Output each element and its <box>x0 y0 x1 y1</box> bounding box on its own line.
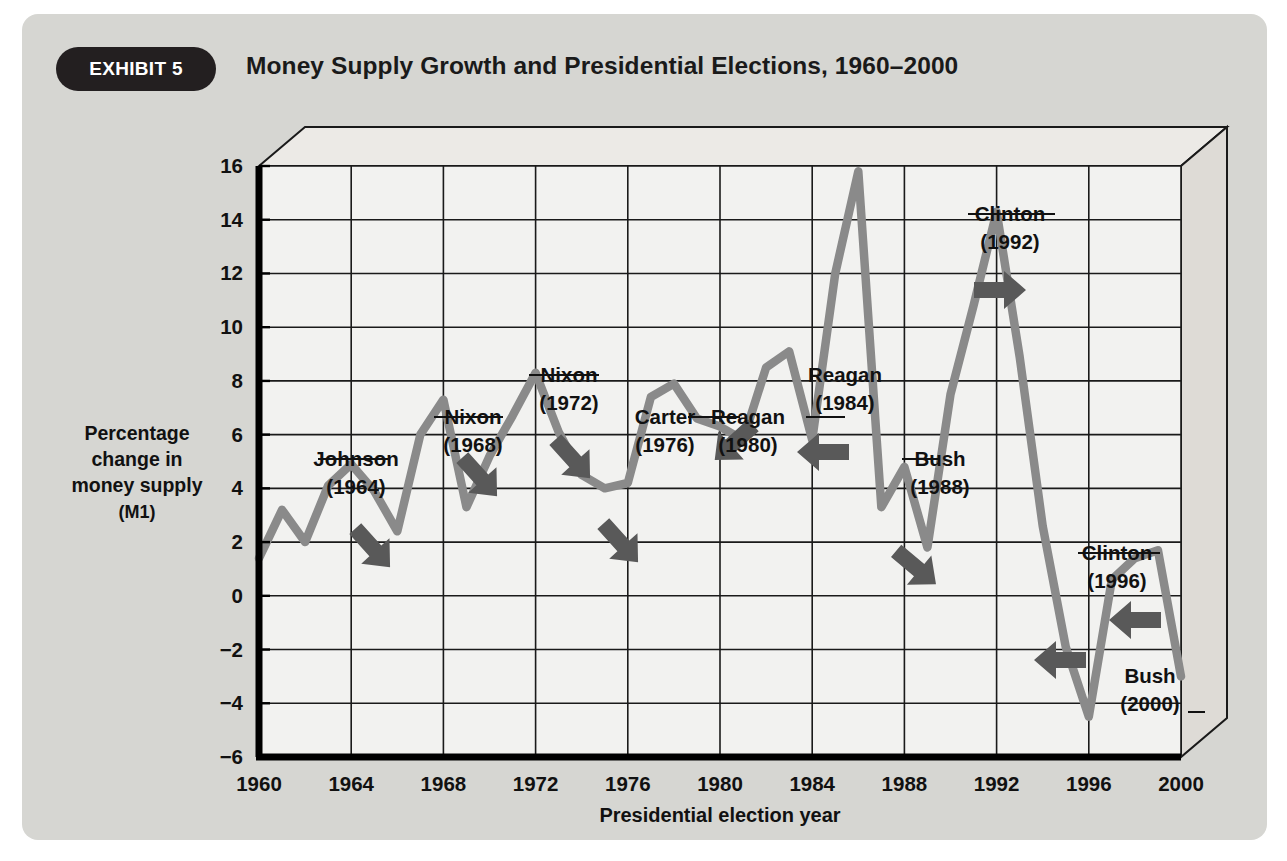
annotation-year-label: (1996) <box>1087 569 1146 592</box>
annotation-year-label: (1964) <box>326 475 385 498</box>
x-axis-tick-label: 1960 <box>236 772 282 795</box>
x-axis-tick-label: 1964 <box>328 772 374 795</box>
annotation-year-label: (2000) <box>1120 692 1179 715</box>
x-axis-tick-label: 1980 <box>697 772 743 795</box>
annotation-president-label: Johnson <box>313 447 398 470</box>
y-axis-title-line: Percentage <box>84 422 189 444</box>
chart-container: 1614121086420−2−4−6 19601964196819721976… <box>0 0 1287 861</box>
annotation-year-label: (1988) <box>910 475 969 498</box>
x-axis-tick-label: 1968 <box>421 772 467 795</box>
y-axis-tick-label: 6 <box>232 423 243 446</box>
x-axis-tick-label: 1984 <box>789 772 835 795</box>
annotation-president-label: Bush <box>1124 664 1175 687</box>
annotation-year-label: (1984) <box>815 391 874 414</box>
annotation-president-label: Clinton <box>1082 541 1153 564</box>
annotation-president-label: Reagan <box>711 405 785 428</box>
annotation-president-label: Nixon <box>445 405 502 428</box>
y-axis-tick-label: 0 <box>232 584 243 607</box>
y-axis-tick-label: 8 <box>232 369 243 392</box>
page-root: EXHIBIT 5 Money Supply Growth and Presid… <box>0 0 1287 861</box>
x-axis-tick-label: 1976 <box>605 772 651 795</box>
y-axis-tick-label: −4 <box>220 691 244 714</box>
annotation-year-label: (1992) <box>980 230 1039 253</box>
annotation-president-label: Carter <box>635 405 695 428</box>
y-axis-title-line: change in <box>91 448 182 470</box>
annotation-year-label: (1976) <box>635 433 694 456</box>
y-axis-tick-label: 2 <box>232 530 243 553</box>
annotation-year-label: (1980) <box>718 433 777 456</box>
annotation-president-label: Nixon <box>541 363 598 386</box>
annotation-president-label: Reagan <box>808 363 882 386</box>
x-axis-tick-label: 1992 <box>974 772 1020 795</box>
annotation-president-label: Bush <box>914 447 965 470</box>
y-axis-title-line: (M1) <box>119 502 156 522</box>
y-axis-tick-label: 12 <box>220 261 243 284</box>
y-axis-tick-label: 10 <box>220 315 243 338</box>
y-axis-tick-label: 14 <box>220 208 243 231</box>
y-axis-tick-label: 16 <box>220 154 243 177</box>
line-chart: 1614121086420−2−4−6 19601964196819721976… <box>0 0 1287 861</box>
x-axis-title: Presidential election year <box>599 804 840 826</box>
y-axis-tick-label: −2 <box>220 638 243 661</box>
x-axis-tick-labels: 1960196419681972197619801984198819921996… <box>236 772 1204 795</box>
y-axis-title-line: money supply <box>71 474 202 496</box>
annotation-year-label: (1972) <box>539 391 598 414</box>
annotation-president-label: Clinton <box>975 202 1046 225</box>
x-axis-tick-label: 2000 <box>1158 772 1204 795</box>
y-axis-title: Percentagechange inmoney supply(M1) <box>71 422 202 522</box>
chart-3d-right-face <box>1181 127 1227 757</box>
y-axis-tick-label: 4 <box>232 476 244 499</box>
annotation-year-label: (1968) <box>443 433 502 456</box>
x-axis-tick-label: 1988 <box>882 772 928 795</box>
x-axis-tick-label: 1996 <box>1066 772 1112 795</box>
x-axis-tick-label: 1972 <box>513 772 559 795</box>
chart-3d-top-face <box>259 127 1227 166</box>
y-axis-tick-label: −6 <box>220 745 243 768</box>
